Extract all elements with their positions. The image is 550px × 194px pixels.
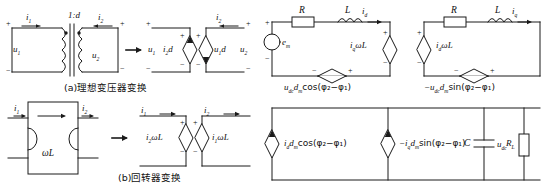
caption-b: (b)回转器变换 [118,170,181,184]
circuit-line-art [0,0,550,194]
polarity-minus-q2: − [454,66,459,75]
label-dependent-source-iqwL: iqωL [350,40,367,52]
label-voltage-u1-eq: u1 [148,44,155,56]
label-current-i1-b: i1 [14,103,19,115]
polarity-minus-d2: − [383,58,388,67]
label-dependent-source-u1d: u1d [214,44,226,56]
polarity-minus-b2: − [193,147,198,156]
label-bottom-source-q: −udcdmsin(φ₂−φ₁) [424,82,495,94]
polarity-minus-q1: − [417,58,422,67]
label-dependent-source-idwL: idωL [436,40,453,52]
caption-a: (a)理想变压器变换 [64,80,147,94]
polarity-plus-d1: + [265,18,270,27]
polarity-plus-a3: + [146,19,151,28]
label-voltage-u1-a: u1 [13,44,20,56]
label-gyrator-omegaL: ωL [42,148,54,158]
label-current-iq: iq [512,6,517,18]
label-turns-ratio: 1:d [68,10,80,20]
label-capacitor-C: C [464,138,470,148]
polarity-plus-src2: + [196,31,201,40]
label-source-em: em [282,37,290,49]
polarity-plus-a1: + [6,19,11,28]
polarity-minus-src1: − [180,60,185,69]
label-current-i2-b: i2 [82,103,87,115]
label-voltage-u2-eq: u2 [240,44,247,56]
label-inductor-L-q: L [495,5,500,15]
label-current-i2-beq: i2 [204,105,209,117]
polarity-plus-b2: + [193,118,198,127]
polarity-plus-a4: + [246,19,251,28]
label-voltage-u2-a: u2 [92,50,99,62]
polarity-minus-src2: − [196,60,201,69]
label-dependent-source-i2wL: i2ωL [146,132,163,144]
polarity-minus-a3: − [146,64,151,73]
label-current-id: id [362,6,367,18]
polarity-plus-a2: + [120,19,125,28]
label-current-i1-beq: i1 [141,105,146,117]
label-resistor-R-q: R [451,5,457,15]
label-current-i1-a: i1 [26,12,31,24]
polarity-plus-q1: + [417,28,422,37]
label-inductor-L-d: L [345,5,350,15]
polarity-plus-src1: + [180,31,185,40]
polarity-minus-a2: − [120,64,125,73]
label-current-i2-eq: i2 [216,12,221,24]
polarity-plus-q2: + [490,66,495,75]
polarity-plus-b1: + [180,118,185,127]
label-bottom-source-d: udcdmcos(φ₂−φ₁) [284,82,351,94]
polarity-minus-a4: − [246,64,251,73]
label-current-source-1: iddmcos(φ₂−φ₁) [284,138,347,150]
polarity-minus-a1: − [6,66,11,75]
label-dependent-source-i1wL: i1ωL [212,132,229,144]
polarity-plus-d3: + [348,66,353,75]
polarity-plus-d2: + [383,28,388,37]
label-current-i2-a: i2 [98,12,103,24]
polarity-minus-d3: − [312,66,317,75]
polarity-minus-b1: − [180,147,185,156]
label-resistor-R-d: R [299,5,305,15]
figure-root: i1 1:d i2 u1 u2 + − + − + − u1 i2d u1d u… [0,0,550,194]
label-current-source-2: −iqdmsin(φ₂−φ₁) [399,138,465,150]
polarity-minus-d1: − [265,54,270,63]
label-dependent-source-i2d: i2d [163,44,173,56]
label-load-RL: RL [506,138,515,150]
